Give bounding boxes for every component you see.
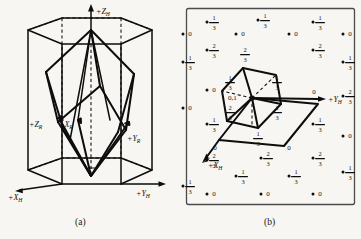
lattice-point xyxy=(206,193,209,196)
rhombus-corner-label-left: 0 xyxy=(213,144,217,152)
svg-text:1: 1 xyxy=(348,54,351,61)
lattice-point xyxy=(342,135,345,138)
lattice-point xyxy=(235,175,238,178)
svg-text:3: 3 xyxy=(318,24,321,31)
svg-text:1: 1 xyxy=(318,116,321,123)
lattice-point xyxy=(342,95,345,98)
svg-text:1: 1 xyxy=(188,54,191,61)
lattice-point xyxy=(312,49,315,52)
svg-text:1: 1 xyxy=(212,116,215,123)
svg-text:2: 2 xyxy=(228,104,231,111)
lattice-point xyxy=(312,157,315,160)
lattice-point xyxy=(342,61,345,64)
lattice-point-zero-label: 0 xyxy=(188,30,192,38)
svg-text:3: 3 xyxy=(318,52,321,59)
svg-text:2: 2 xyxy=(318,42,321,49)
figure-canvas: +ZH +XH +YH +ZR +XR +YR (a) 131313000023… xyxy=(0,0,361,239)
svg-text:3: 3 xyxy=(241,178,244,185)
svg-text:3: 3 xyxy=(266,160,269,167)
lattice-point xyxy=(182,61,185,64)
lattice-point xyxy=(312,193,315,196)
svg-text:1: 1 xyxy=(212,14,215,21)
lattice-point xyxy=(182,185,185,188)
lattice-point xyxy=(206,49,209,52)
figure-background xyxy=(0,0,361,239)
lattice-point xyxy=(206,89,209,92)
svg-text:1: 1 xyxy=(318,14,321,21)
lattice-point-zero-label: 0 xyxy=(294,30,298,38)
lattice-point xyxy=(342,171,345,174)
svg-text:1: 1 xyxy=(275,74,278,81)
svg-text:3: 3 xyxy=(212,126,215,133)
figure-root: +ZH +XH +YH +ZR +XR +YR (a) 131313000023… xyxy=(0,0,361,239)
lattice-point xyxy=(182,33,185,36)
svg-text:1: 1 xyxy=(348,164,351,171)
svg-text:3: 3 xyxy=(318,160,321,167)
svg-text:2: 2 xyxy=(212,152,215,159)
svg-text:3: 3 xyxy=(275,84,278,91)
svg-text:2: 2 xyxy=(266,150,269,157)
lattice-point-zero-label: 0 xyxy=(188,104,192,112)
svg-text:1: 1 xyxy=(188,178,191,185)
svg-text:2: 2 xyxy=(275,104,278,111)
svg-text:3: 3 xyxy=(275,114,278,121)
lattice-point xyxy=(235,33,238,36)
svg-text:3: 3 xyxy=(228,84,231,91)
lattice-point xyxy=(288,175,291,178)
lattice-point xyxy=(288,33,291,36)
rhombus-corner-label-right: 0 xyxy=(287,144,291,152)
svg-text:1: 1 xyxy=(263,12,266,19)
hexagon-center-label: 0,1 xyxy=(228,94,237,102)
lattice-point xyxy=(182,107,185,110)
panel-b-caption: (b) xyxy=(264,217,275,228)
svg-text:3: 3 xyxy=(188,64,191,71)
svg-text:3: 3 xyxy=(348,174,351,181)
lattice-point-zero-label: 0 xyxy=(348,30,352,38)
svg-text:3: 3 xyxy=(228,114,231,121)
svg-text:3: 3 xyxy=(212,52,215,59)
svg-text:2: 2 xyxy=(212,42,215,49)
lattice-point-zero-label: 0 xyxy=(241,30,245,38)
svg-text:3: 3 xyxy=(263,22,266,29)
lattice-point xyxy=(312,123,315,126)
lattice-point xyxy=(206,21,209,24)
svg-text:3: 3 xyxy=(188,188,191,195)
svg-text:3: 3 xyxy=(318,126,321,133)
lattice-point-zero-label: 0 xyxy=(266,190,270,198)
svg-text:1: 1 xyxy=(294,168,297,175)
lattice-point xyxy=(260,157,263,160)
svg-text:3: 3 xyxy=(256,140,259,147)
lattice-point xyxy=(342,33,345,36)
panel-a-caption: (a) xyxy=(75,217,86,228)
svg-text:3: 3 xyxy=(348,64,351,71)
lattice-point-zero-label: 0 xyxy=(318,190,322,198)
svg-text:1: 1 xyxy=(256,130,259,137)
lattice-point xyxy=(257,19,260,22)
lattice-point-zero-label: 0 xyxy=(212,86,216,94)
svg-text:2: 2 xyxy=(318,150,321,157)
rhombus-corner-label-far: 0 xyxy=(312,88,316,96)
lattice-point xyxy=(206,123,209,126)
svg-text:1: 1 xyxy=(241,168,244,175)
lattice-point xyxy=(260,193,263,196)
lattice-point-zero-label: 0 xyxy=(212,190,216,198)
svg-text:3: 3 xyxy=(212,24,215,31)
svg-text:2: 2 xyxy=(243,46,246,53)
svg-text:3: 3 xyxy=(348,98,351,105)
svg-text:2: 2 xyxy=(348,88,351,95)
svg-text:3: 3 xyxy=(243,56,246,63)
svg-text:3: 3 xyxy=(294,178,297,185)
lattice-point xyxy=(312,21,315,24)
lattice-point-zero-label: 0 xyxy=(348,132,352,140)
svg-text:1: 1 xyxy=(228,74,231,81)
